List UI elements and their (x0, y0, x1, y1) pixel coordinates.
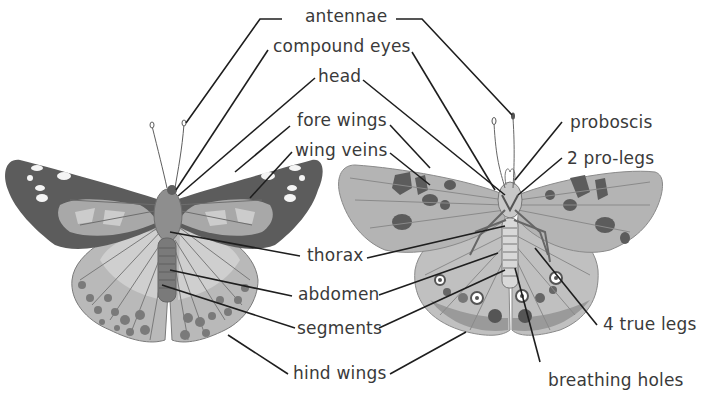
label-thorax: thorax (307, 245, 364, 265)
leader-compound-eyes-right (412, 52, 495, 190)
leader-hind-wings-right (390, 332, 466, 374)
label-fore-wings: fore wings (297, 110, 387, 130)
leader-fore-wings-left (235, 126, 290, 172)
butterfly-anatomy-diagram: antennae compound eyes head fore wings w… (0, 0, 701, 393)
leader-proboscis (515, 122, 562, 180)
dorsal-butterfly (5, 120, 323, 342)
label-abdomen: abdomen (298, 284, 380, 304)
label-pro-legs: 2 pro-legs (567, 148, 654, 168)
leader-hind-wings-left (228, 335, 288, 374)
label-compound-eyes: compound eyes (273, 36, 411, 56)
leader-fore-wings-right (390, 125, 430, 168)
leader-compound-eyes-left (176, 50, 268, 190)
label-wing-veins: wing veins (295, 140, 387, 160)
label-hind-wings: hind wings (293, 363, 387, 383)
leader-antennae-right (396, 19, 512, 115)
label-head: head (318, 66, 361, 86)
leader-antennae-left (186, 19, 282, 123)
label-antennae: antennae (305, 6, 387, 26)
label-true-legs: 4 true legs (603, 314, 697, 334)
label-breathing-holes: breathing holes (548, 370, 684, 390)
label-segments: segments (297, 318, 382, 338)
label-proboscis: proboscis (570, 112, 653, 132)
